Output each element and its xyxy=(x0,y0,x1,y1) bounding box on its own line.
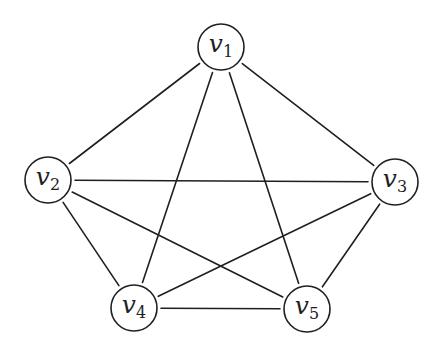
edge-v4-v5 xyxy=(161,308,280,309)
edge-v3-v4 xyxy=(158,194,370,297)
edge-v2-v3 xyxy=(75,180,368,182)
node-v4: v4 xyxy=(111,285,157,331)
node-v2: v2 xyxy=(25,157,71,203)
edge-v1-v4 xyxy=(143,73,213,283)
edge-v1-v2 xyxy=(69,64,199,164)
edges-group xyxy=(63,64,380,309)
graph-diagram: v1 v2 v3 v4 v5 xyxy=(0,0,441,353)
node-v3: v3 xyxy=(372,159,418,205)
nodes-group: v1 v2 v3 v4 v5 xyxy=(25,24,418,332)
edge-v2-v4 xyxy=(63,202,119,285)
node-v1: v1 xyxy=(198,24,244,70)
node-v5: v5 xyxy=(284,286,330,332)
edge-v1-v5 xyxy=(229,73,298,284)
edge-v1-v3 xyxy=(242,64,373,166)
edge-v2-v5 xyxy=(72,192,283,297)
edge-v3-v5 xyxy=(322,204,379,287)
